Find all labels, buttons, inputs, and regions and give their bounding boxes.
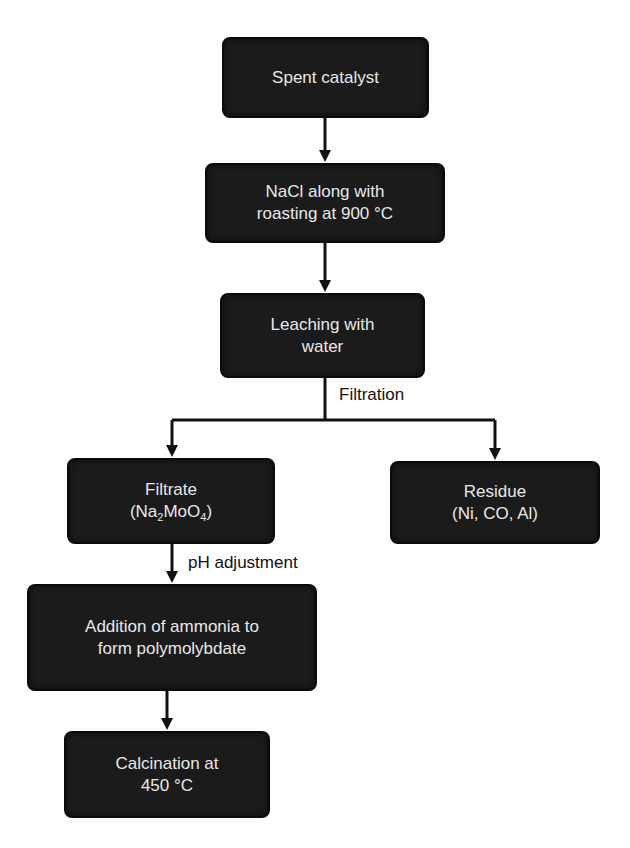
edge-label-ph-adjustment: pH adjustment — [188, 553, 298, 573]
arrowhead-icon — [319, 150, 331, 162]
node-text: Filtrate — [130, 479, 212, 501]
node-text: water — [271, 336, 375, 358]
node-text: Leaching with — [271, 314, 375, 336]
node-text: form polymolybdate — [85, 638, 259, 660]
arrowhead-icon — [319, 280, 331, 292]
node-calcination: Calcination at 450 °C — [64, 731, 270, 818]
arrowhead-icon — [166, 571, 178, 583]
node-text: (Ni, CO, Al) — [452, 503, 538, 525]
node-text: NaCl along with — [257, 181, 393, 203]
arrowhead-icon — [161, 718, 173, 730]
node-text: Addition of ammonia to — [85, 616, 259, 638]
arrowhead-icon — [166, 445, 178, 457]
node-text: Calcination at — [115, 753, 218, 775]
node-ammonia: Addition of ammonia to form polymolybdat… — [27, 584, 317, 691]
node-text: Residue — [452, 481, 538, 503]
arrowhead-icon — [489, 448, 501, 460]
node-residue: Residue (Ni, CO, Al) — [390, 461, 600, 544]
node-filtrate: Filtrate (Na2MoO4) — [67, 458, 275, 544]
node-formula: (Na2MoO4) — [130, 501, 212, 523]
node-nacl-roasting: NaCl along with roasting at 900 °C — [205, 163, 445, 243]
flow-connectors — [0, 0, 630, 848]
node-text: 450 °C — [115, 775, 218, 797]
node-text: Spent catalyst — [272, 67, 379, 89]
node-text: roasting at 900 °C — [257, 203, 393, 225]
node-spent-catalyst: Spent catalyst — [222, 37, 429, 118]
node-leaching: Leaching with water — [220, 293, 425, 378]
edge-label-filtration: Filtration — [339, 385, 404, 405]
